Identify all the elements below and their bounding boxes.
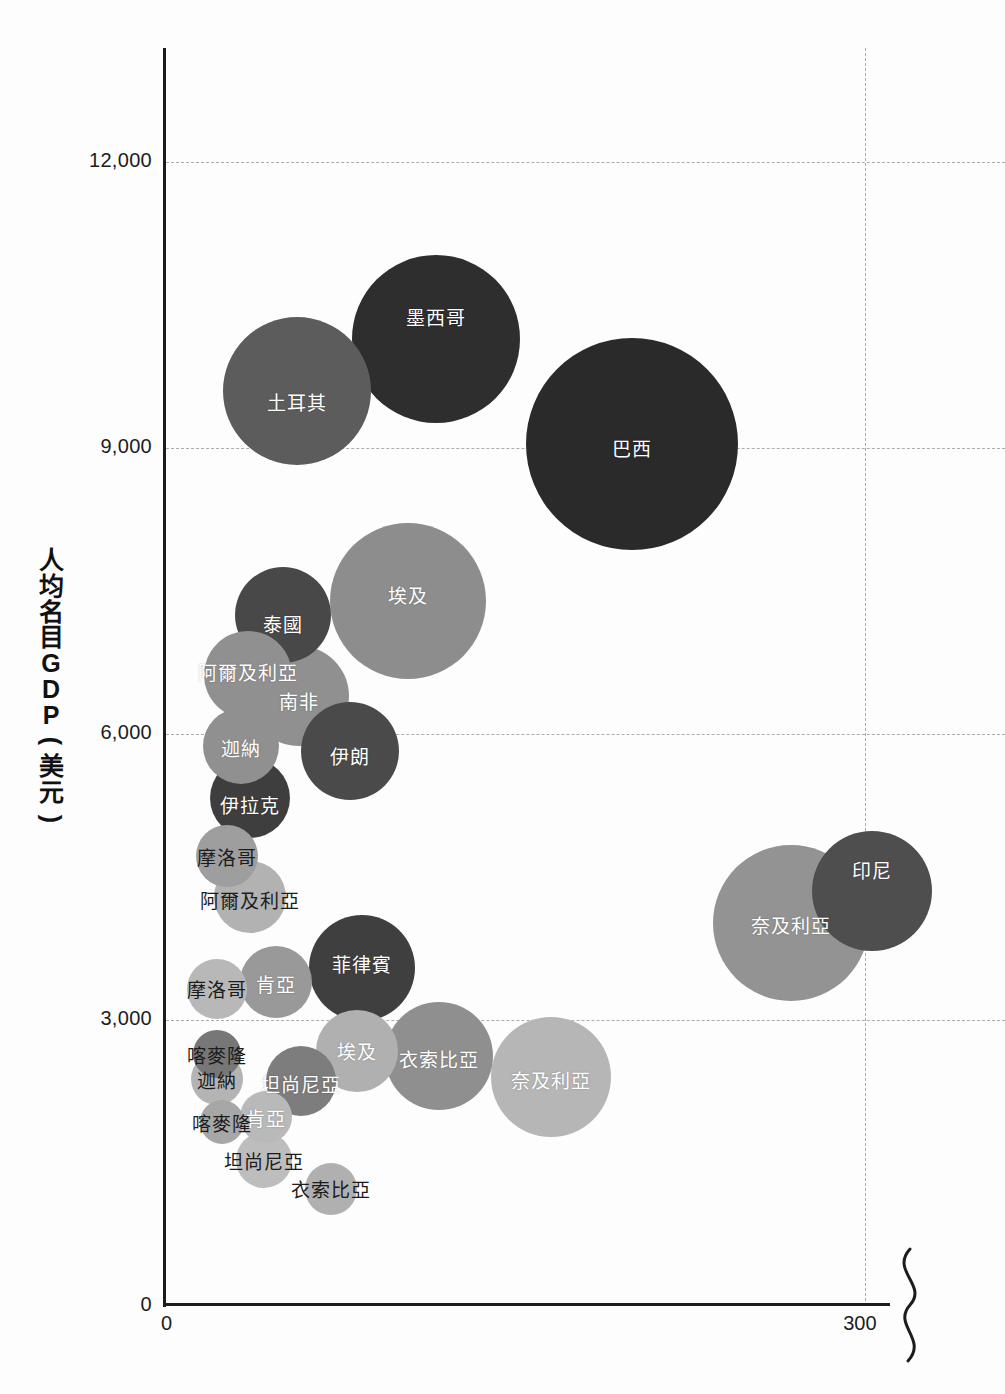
y-axis-tick-label: 6,000 — [100, 721, 152, 744]
bubble[interactable] — [187, 959, 247, 1019]
x-axis-line — [166, 1303, 890, 1306]
gridline-horizontal — [166, 1020, 1005, 1021]
axis-break-squiggle-icon — [880, 1245, 940, 1365]
gridline-horizontal — [166, 162, 1005, 163]
y-axis-tick-label: 9,000 — [100, 435, 152, 458]
y-axis-line — [163, 48, 166, 1307]
bubble[interactable] — [196, 825, 258, 887]
bubble[interactable] — [305, 1163, 357, 1215]
y-axis-tick-labels: 03,0006,0009,00012,000 — [0, 0, 152, 1394]
plot-area: 巴西墨西哥埃及奈及利亞土耳其奈及利亞印尼衣索比亞菲律賓南非伊朗泰國阿爾及利亞埃及… — [166, 48, 1005, 1306]
bubble[interactable] — [240, 1091, 292, 1143]
bubble[interactable] — [223, 317, 371, 465]
bubble[interactable] — [203, 708, 279, 784]
bubble[interactable] — [385, 1002, 493, 1110]
y-axis-tick-label: 3,000 — [100, 1007, 152, 1030]
bubble[interactable] — [526, 338, 738, 550]
bubble[interactable] — [204, 631, 292, 719]
axis-break-icon — [880, 1245, 940, 1365]
y-axis-tick-label: 0 — [141, 1293, 152, 1316]
bubble[interactable] — [200, 1100, 244, 1144]
bubble[interactable] — [352, 255, 520, 423]
x-axis-tick-0: 0 — [161, 1312, 172, 1335]
bubble[interactable] — [491, 1017, 611, 1137]
bubble[interactable] — [330, 523, 486, 679]
bubble[interactable] — [301, 702, 399, 800]
y-axis-tick-label: 12,000 — [89, 149, 152, 172]
bubble[interactable] — [812, 831, 932, 951]
gridline-vertical — [865, 48, 866, 1306]
bubble[interactable] — [309, 915, 415, 1021]
bubble-chart: 人 均 名 目 G D P ( 美 元 ) 03,0006,0009,00012… — [0, 0, 1005, 1394]
x-axis-tick-300: 300 — [843, 1312, 876, 1335]
bubble[interactable] — [240, 946, 312, 1018]
